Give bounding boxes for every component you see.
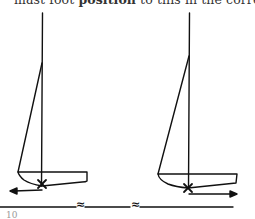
left-arrow-head-icon: [10, 188, 17, 194]
left-mast: [42, 13, 43, 186]
break-mark-1: ≈: [76, 198, 85, 211]
right-mast: [189, 13, 190, 188]
sailboat-diagram: [0, 0, 255, 219]
left-forestay: [18, 63, 42, 172]
footer-label: 10: [6, 210, 17, 219]
right-boat: [158, 13, 237, 197]
left-arrow-shaft: [14, 190, 42, 191]
left-hull: [18, 172, 87, 186]
right-forestay: [158, 56, 189, 174]
break-mark-2: ≈: [131, 198, 140, 211]
left-boat: [10, 13, 87, 194]
right-hull: [158, 174, 237, 188]
right-arrow-head-icon: [230, 191, 237, 197]
